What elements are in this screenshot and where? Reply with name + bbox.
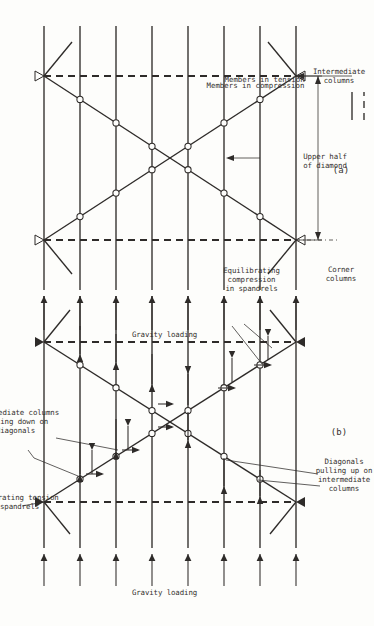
figure-page: Equilibrating tension in spandrels Inter… bbox=[0, 0, 374, 626]
panel-b-force-arrows bbox=[77, 326, 272, 504]
panel-a-frame bbox=[35, 26, 305, 290]
callout-corner-columns: Corner columns bbox=[301, 265, 374, 283]
callout-equilibrating-tension-spandrels: Equilibrating tension in spandrels bbox=[0, 493, 73, 511]
figure-rotated-canvas: Equilibrating tension in spandrels Inter… bbox=[0, 0, 374, 626]
callout-intermediate-columns-pulling-down: Intermediate columns pulling down on dia… bbox=[0, 408, 81, 435]
callout-diagonals-pulling-up: Diagonals pulling up on intermediate col… bbox=[289, 457, 374, 493]
legend-item-members-in-tension: Members in tension bbox=[225, 75, 365, 84]
panel-b-gravity-arrows bbox=[41, 554, 300, 586]
callout-equilibrating-compression-spandrels: Equilibrating compression in spandrels bbox=[197, 266, 307, 293]
callout-upper-half-of-diamond: Upper half of diamond bbox=[280, 152, 370, 170]
panel-b-gravity-loading-label: Gravity loading bbox=[117, 588, 213, 597]
panel-a-gravity-loading-label: Gravity loading bbox=[117, 330, 213, 339]
diagram-linework bbox=[0, 0, 374, 626]
legend-rules bbox=[352, 92, 364, 120]
panel-a-label: (a) bbox=[333, 165, 349, 175]
panel-b-label: (b) bbox=[331, 427, 347, 437]
